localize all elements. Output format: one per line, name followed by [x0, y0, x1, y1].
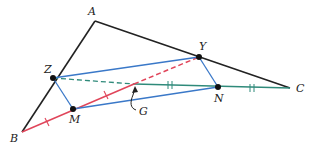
- label-C: C: [296, 82, 305, 95]
- label-B: B: [9, 132, 18, 145]
- point-N: [215, 84, 221, 90]
- label-A: A: [87, 5, 96, 18]
- arrowhead-icon: [132, 86, 138, 93]
- point-M: [70, 106, 76, 112]
- median-ZC-dashed: [53, 78, 134, 84]
- segment-MZ: [53, 78, 73, 109]
- label-M: M: [68, 113, 81, 126]
- side-AC: [95, 21, 290, 88]
- diagram-canvas: A B C Y Z M N G: [0, 0, 313, 146]
- label-Z: Z: [43, 63, 52, 76]
- triangle-diagram: A B C Y Z M N G: [0, 0, 313, 146]
- label-G: G: [139, 105, 148, 118]
- point-Y: [196, 54, 202, 60]
- segment-ZY: [53, 57, 199, 78]
- label-N: N: [213, 92, 224, 105]
- side-AB: [22, 21, 95, 132]
- label-Y: Y: [199, 40, 208, 53]
